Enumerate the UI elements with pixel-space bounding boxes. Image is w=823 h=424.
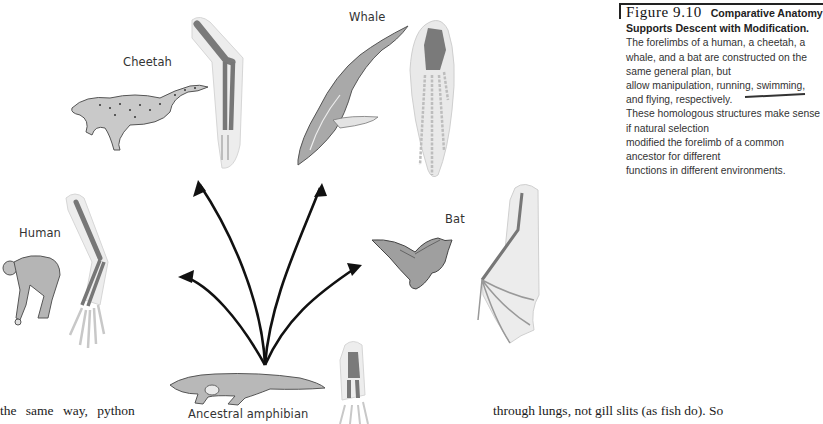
caption-body: The forelimbs of a human, a cheetah, a w…	[619, 36, 823, 178]
cheetah-forelimb	[192, 17, 243, 168]
caption-line: allow manipulation, running, swimming, a…	[626, 79, 823, 107]
caption-line: The forelimbs of a human, a cheetah, a	[626, 36, 823, 50]
caption-line: whale, and a bat are constructed on the …	[626, 51, 823, 79]
caption-heading: Figure 9.10 Comparative Anatomy Supports…	[619, 5, 823, 36]
figure-caption: Figure 9.10 Comparative Anatomy Supports…	[619, 5, 823, 178]
bat-wing	[478, 184, 539, 343]
label-ancestral-amphibian: Ancestral amphibian	[188, 407, 308, 421]
label-whale: Whale	[349, 10, 385, 24]
cheetah-illustration	[72, 85, 208, 150]
human-illustration	[3, 256, 60, 325]
bat-illustration	[372, 238, 452, 289]
figure-number: Figure 9.10	[626, 4, 702, 20]
amphibian-forelimb	[340, 342, 368, 424]
label-human: Human	[19, 226, 61, 240]
human-forelimb	[66, 194, 108, 348]
divergence-arrows	[183, 185, 357, 365]
caption-line: These homologous structures make sense i…	[626, 107, 823, 135]
caption-line: modified the forelimb of a common ancest…	[626, 136, 823, 164]
whale-flipper	[410, 21, 454, 177]
body-text-right: through lungs, not gill slits (as fish d…	[493, 403, 723, 419]
whale-illustration	[298, 26, 408, 165]
body-text-left: the same way, python	[0, 403, 135, 419]
label-bat: Bat	[445, 212, 465, 226]
amphibian-illustration	[170, 374, 325, 406]
label-cheetah: Cheetah	[123, 55, 172, 69]
caption-line: functions in different environments.	[626, 164, 823, 178]
